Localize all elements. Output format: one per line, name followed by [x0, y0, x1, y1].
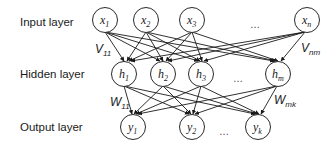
input-ellipsis: …: [250, 19, 260, 30]
input-node-xn: xn: [295, 8, 320, 33]
input-layer-label: Input layer: [20, 16, 74, 28]
weight-label-v11: V11: [95, 42, 111, 58]
output-node-y1: y1: [121, 115, 146, 140]
input-hidden-edges: [105, 32, 305, 61]
hidden-node-h3: h3: [189, 62, 214, 87]
hidden-node-h1: h1: [112, 62, 137, 87]
output-node-yk: yk: [246, 115, 271, 140]
weight-label-vnm: Vnm: [301, 41, 320, 57]
neural-network-diagram: Input layer Hidden layer Output layer: [0, 0, 332, 147]
hidden-node-hm: hm: [266, 62, 291, 87]
weight-label-wmk: Wmk: [274, 93, 297, 109]
weight-label-w11: W11: [110, 95, 130, 111]
hidden-ellipsis: …: [233, 73, 243, 84]
output-layer-label: Output layer: [20, 121, 83, 133]
hidden-layer-label: Hidden layer: [20, 68, 85, 80]
output-ellipsis: …: [219, 126, 229, 137]
hidden-output-edges: [124, 86, 277, 114]
hidden-node-h2: h2: [151, 62, 176, 87]
input-node-x3: x3: [180, 8, 205, 33]
input-node-x1: x1: [93, 8, 118, 33]
input-node-x2: x2: [134, 8, 159, 33]
output-node-y2: y2: [180, 115, 205, 140]
